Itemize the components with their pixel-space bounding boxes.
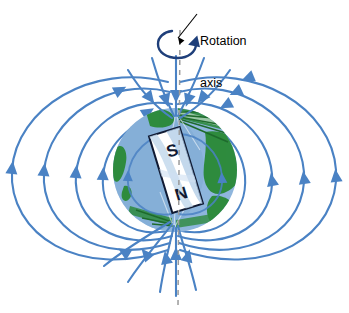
arrowhead-left-2 [37,163,50,177]
polar-line-n1 [152,58,174,116]
diagram-canvas: S N [0,0,349,313]
polar-line-s5 [104,222,170,266]
magnetic-field-diagram: S N Rotation axis [0,0,349,313]
rotation-axis-label: Rotation axis [200,6,247,104]
arrowhead-s2 [170,247,182,260]
arrowhead-right-low-1 [329,168,342,182]
rotation-axis-label-line2: axis [200,76,247,90]
arrowhead-left-outer [5,160,18,174]
rotation-leader-arrowhead [177,37,185,45]
arrowhead-left-3 [70,165,83,179]
continent-right-lower [207,196,236,229]
rotation-label-leader-line [178,14,197,38]
rotation-axis-label-line1: Rotation [200,34,247,48]
arrowhead-n1 [159,93,174,109]
arrowhead-left-4 [97,167,110,181]
